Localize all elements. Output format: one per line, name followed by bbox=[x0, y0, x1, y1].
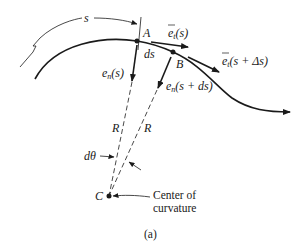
normal-b-label: en(s + ds) bbox=[166, 79, 213, 94]
arc-length-label: s bbox=[84, 11, 89, 25]
tangent-b-label: et(s + Δs) bbox=[222, 53, 268, 69]
figure-caption: (a) bbox=[144, 228, 157, 241]
radius-line-b bbox=[109, 90, 157, 196]
center-c-label: C bbox=[95, 189, 104, 203]
tangent-a-label: et(s) bbox=[168, 25, 188, 41]
center-label-line2: curvature bbox=[153, 202, 196, 214]
center-point-c bbox=[107, 194, 112, 199]
radius-label-1: R bbox=[111, 121, 120, 135]
angle-label: dθ bbox=[84, 149, 96, 163]
radius-line-a bbox=[109, 82, 132, 196]
center-label-line1: Center of bbox=[153, 189, 196, 201]
point-b-label: B bbox=[176, 57, 184, 71]
normal-a-label: en(s) bbox=[102, 66, 124, 81]
center-pointer-arrow bbox=[113, 195, 150, 197]
point-b bbox=[171, 50, 176, 55]
curvature-diagram: s A et(s) ds B et(s + Δs) en(s) en(s + d… bbox=[0, 0, 308, 250]
radius-label-2: R bbox=[143, 121, 152, 135]
point-a-label: A bbox=[142, 26, 151, 40]
normal-vector-a bbox=[132, 45, 137, 81]
point-a bbox=[135, 39, 140, 44]
svg-text:en(s + ds): en(s + ds) bbox=[166, 79, 213, 94]
segment-ds-label: ds bbox=[144, 47, 155, 61]
tangent-vector-b bbox=[188, 57, 219, 72]
svg-text:et(s + Δs): et(s + Δs) bbox=[222, 54, 268, 69]
angle-d-theta: dθ bbox=[84, 149, 141, 170]
svg-text:et(s): et(s) bbox=[168, 26, 188, 41]
svg-text:en(s): en(s) bbox=[102, 66, 124, 81]
